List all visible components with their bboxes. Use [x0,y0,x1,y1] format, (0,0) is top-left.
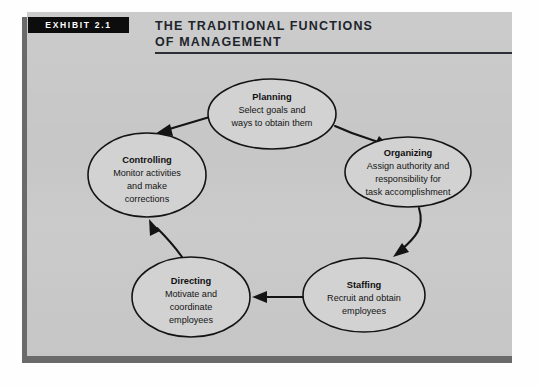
node-organizing-line-2: responsibility for [375,174,441,184]
arrowhead-controlling [149,219,160,236]
node-directing-line-2: coordinate [170,302,212,312]
node-planning[interactable]: Planning Select goals and ways to obtain… [208,79,336,149]
arrowhead-directing [252,291,267,303]
node-directing-title: Directing [171,276,212,286]
management-functions-cycle-diagram: Planning Select goals and ways to obtain… [27,12,512,356]
node-directing-line-3: employees [169,315,213,325]
edge-staffing-to-directing [252,291,303,303]
title-divider-rule [155,52,512,54]
node-controlling-title: Controlling [122,155,172,165]
node-staffing-title: Staffing [347,280,382,290]
node-organizing-line-1: Assign authority and [367,161,449,171]
node-organizing[interactable]: Organizing Assign authority and responsi… [345,137,471,207]
edge-planning-to-controlling [155,116,213,136]
node-planning-title: Planning [252,92,292,102]
node-controlling-line-2: and make [127,181,167,191]
node-organizing-line-3: task accomplishment [366,187,451,197]
node-staffing[interactable]: Staffing Recruit and obtain employees [303,258,425,332]
edge-directing-to-controlling [149,219,182,257]
edge-organizing-to-staffing [393,208,421,257]
node-organizing-title: Organizing [384,148,433,158]
exhibit-number-tab: EXHIBIT 2.1 [28,17,129,33]
node-controlling-line-1: Monitor activities [113,168,181,178]
node-controlling[interactable]: Controlling Monitor activities and make … [88,133,206,217]
node-planning-line-2: ways to obtain them [231,118,313,128]
node-staffing-line-2: employees [342,306,386,316]
exhibit-title-line-2: OF MANAGEMENT [155,34,495,50]
node-controlling-line-3: corrections [125,194,170,204]
node-planning-line-1: Select goals and [238,105,305,115]
screenshot-root: EXHIBIT 2.1 THE TRADITIONAL FUNCTIONS OF… [0,0,538,387]
node-directing[interactable]: Directing Motivate and coordinate employ… [132,257,250,337]
exhibit-title: THE TRADITIONAL FUNCTIONS OF MANAGEMENT [155,18,495,50]
node-directing-line-1: Motivate and [165,289,217,299]
exhibit-panel: EXHIBIT 2.1 THE TRADITIONAL FUNCTIONS OF… [27,12,512,356]
exhibit-title-line-1: THE TRADITIONAL FUNCTIONS [155,18,495,34]
node-staffing-line-1: Recruit and obtain [327,293,401,303]
